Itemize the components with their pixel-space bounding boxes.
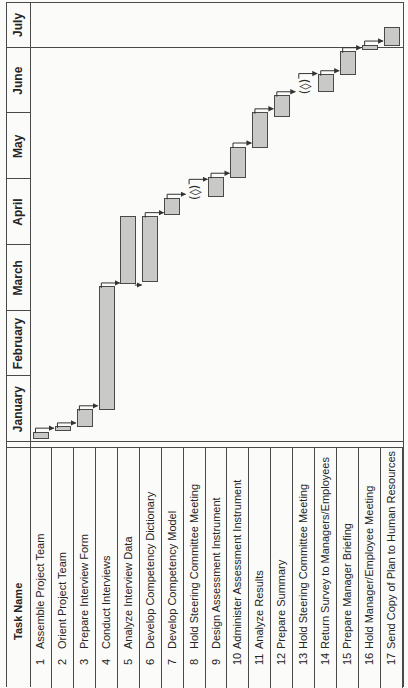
rotated-gantt-canvas: Task Name JanuaryFebruaryMarchAprilMayJu… bbox=[0, 0, 408, 688]
month-header-january: January bbox=[6, 376, 30, 442]
task-row-14: 14Return Survey to Managers/Employees bbox=[315, 448, 337, 688]
task-name: Return Survey to Managers/Employees bbox=[315, 457, 336, 649]
task-row-6: 6Develop Competency Dictionary bbox=[140, 448, 162, 688]
task-number: 17 bbox=[381, 649, 402, 665]
task-row-13: 13Hold Steering Committee Meeting bbox=[293, 448, 315, 688]
task-name: Develop Competency Dictionary bbox=[140, 492, 161, 649]
task-name: Administer Assessment Instrument bbox=[227, 480, 248, 649]
milestone-task-8: (◊) bbox=[188, 185, 202, 200]
month-header-may: May bbox=[6, 114, 30, 180]
task-number: 16 bbox=[359, 649, 380, 665]
scanned-gantt-figure: Task Name JanuaryFebruaryMarchAprilMayJu… bbox=[0, 0, 408, 688]
task-number: 13 bbox=[293, 649, 314, 665]
task-row-2: 2Orient Project Team bbox=[52, 448, 74, 688]
task-bar-12 bbox=[275, 96, 290, 116]
month-header-february: February bbox=[6, 311, 30, 377]
task-name: Hold Manager/Employee Meeting bbox=[359, 486, 380, 649]
task-row-4: 4Conduct Interviews bbox=[96, 448, 118, 688]
month-header-july: July bbox=[6, 2, 30, 48]
task-row-8: 8Hold Steering Committee Meeting bbox=[184, 448, 206, 688]
task-row-3: 3Prepare Interview Form bbox=[74, 448, 96, 688]
gantt-plot-area: (◊)(◊) bbox=[30, 2, 403, 442]
bottom-border-line bbox=[403, 2, 404, 687]
task-name: Send Copy of Plan to Human Resources bbox=[381, 451, 402, 649]
month-header-march: March bbox=[6, 245, 30, 311]
task-name: Design Assessment Instrument bbox=[206, 497, 227, 649]
link-arrow-8-9 bbox=[189, 179, 207, 184]
task-name: Prepare Manager Briefing bbox=[337, 523, 358, 649]
task-name: Hold Steering Committee Meeting bbox=[184, 484, 205, 649]
task-row-11: 11Analyze Results bbox=[249, 448, 271, 688]
task-bar-6 bbox=[143, 217, 158, 282]
task-number: 3 bbox=[74, 649, 95, 665]
task-number: 10 bbox=[227, 649, 248, 665]
task-row-12: 12Prepare Summary bbox=[271, 448, 293, 688]
task-row-10: 10Administer Assessment Instrument bbox=[227, 448, 249, 688]
task-name: Conduct Interviews bbox=[96, 555, 117, 649]
task-name: Prepare Interview Form bbox=[74, 534, 95, 649]
task-name: Prepare Summary bbox=[271, 560, 292, 649]
link-arrow-13-14 bbox=[299, 74, 317, 79]
task-row-9: 9Design Assessment Instrument bbox=[206, 448, 228, 688]
task-bar-15 bbox=[340, 52, 355, 75]
task-bar-17 bbox=[384, 27, 399, 46]
task-name: Assemble Project Team bbox=[30, 534, 51, 649]
task-row-17: 17Send Copy of Plan to Human Resources bbox=[381, 448, 403, 688]
task-number: 15 bbox=[337, 649, 358, 665]
task-bar-4 bbox=[99, 287, 114, 409]
task-number: 1 bbox=[30, 649, 51, 665]
month-separator bbox=[6, 178, 30, 179]
task-row-1: 1Assemble Project Team bbox=[30, 448, 52, 688]
month-separator bbox=[6, 375, 30, 376]
task-bar-5 bbox=[121, 217, 136, 283]
month-separator bbox=[6, 47, 30, 48]
task-number: 7 bbox=[162, 649, 183, 665]
task-bar-3 bbox=[77, 410, 92, 427]
task-number: 5 bbox=[118, 649, 139, 665]
task-bar-9 bbox=[209, 177, 224, 197]
task-bar-14 bbox=[318, 75, 333, 92]
task-row-7: 7Develop Competency Model bbox=[162, 448, 184, 688]
month-header-june: June bbox=[6, 48, 30, 114]
gantt-chart: Task Name JanuaryFebruaryMarchAprilMayJu… bbox=[0, 0, 408, 688]
task-bar-10 bbox=[231, 147, 246, 177]
task-number: 12 bbox=[271, 649, 292, 665]
task-name: Analyze Interview Data bbox=[118, 537, 139, 650]
task-row-5: 5Analyze Interview Data bbox=[118, 448, 140, 688]
month-separator bbox=[6, 244, 30, 245]
task-number: 2 bbox=[52, 649, 73, 665]
task-bar-11 bbox=[253, 113, 268, 147]
task-name: Hold Steering Committee Meeting bbox=[293, 484, 314, 649]
month-header-april: April bbox=[6, 179, 30, 245]
task-number: 4 bbox=[96, 649, 117, 665]
task-name-header: Task Name bbox=[6, 583, 30, 640]
month-separator bbox=[6, 113, 30, 114]
task-bar-7 bbox=[165, 198, 180, 214]
milestone-task-13: (◊) bbox=[298, 79, 312, 94]
task-name: Develop Competency Model bbox=[162, 511, 183, 649]
task-name: Analyze Results bbox=[249, 570, 270, 649]
task-row-15: 15Prepare Manager Briefing bbox=[337, 448, 359, 688]
task-row-16: 16Hold Manager/Employee Meeting bbox=[359, 448, 381, 688]
task-number: 6 bbox=[140, 649, 161, 665]
task-name: Orient Project Team bbox=[52, 552, 73, 649]
month-separator bbox=[6, 310, 30, 311]
task-number: 8 bbox=[184, 649, 205, 665]
task-number: 14 bbox=[315, 649, 336, 665]
task-number: 9 bbox=[206, 649, 227, 665]
task-number: 11 bbox=[249, 649, 270, 665]
